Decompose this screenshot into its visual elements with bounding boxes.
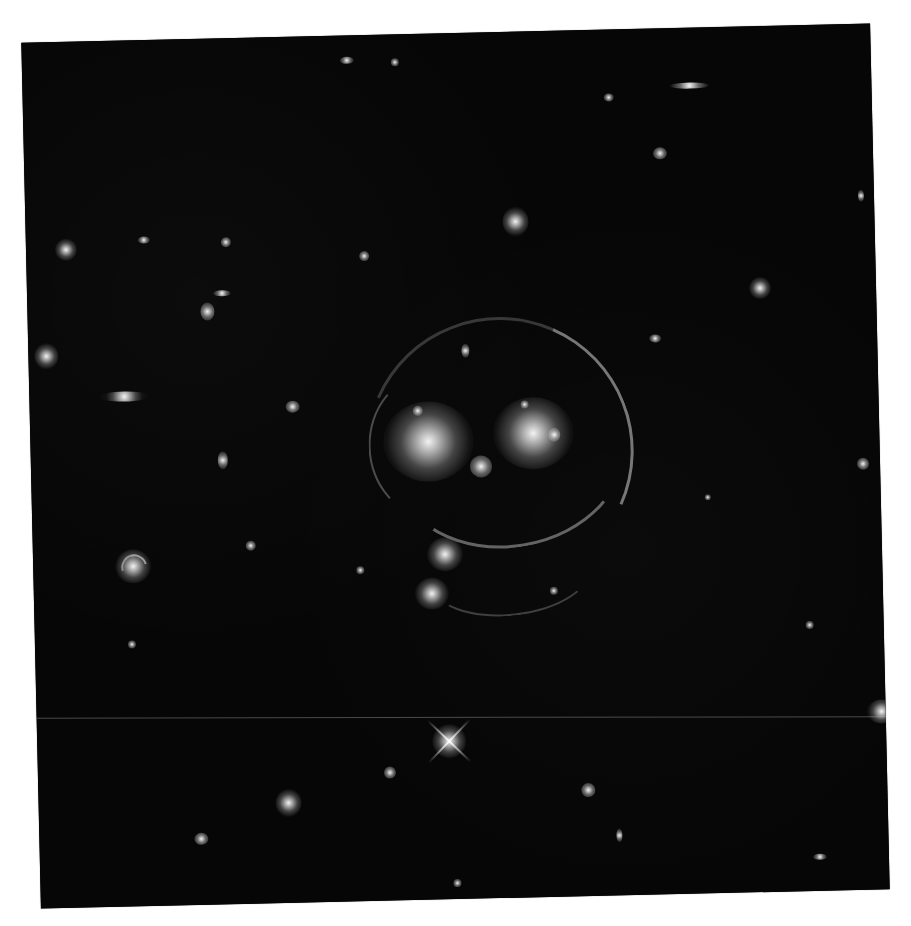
field-galaxy	[858, 190, 864, 202]
field-galaxy	[705, 494, 711, 500]
field-galaxy	[461, 344, 469, 358]
astronomical-photo	[21, 23, 889, 908]
field-galaxy	[616, 828, 622, 842]
field-galaxy	[218, 451, 228, 469]
page	[0, 0, 911, 926]
